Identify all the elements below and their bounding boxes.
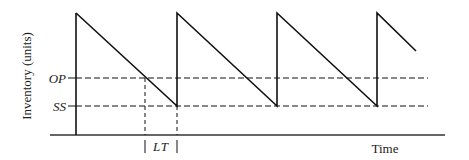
ss-label: SS [53, 99, 67, 114]
lead-time-label: LT [152, 139, 169, 154]
inventory-sawtooth [76, 13, 416, 106]
x-axis-label: Time [372, 141, 399, 156]
inventory-diagram: Inventory (units) OP SS LT Time [0, 0, 469, 160]
op-label: OP [49, 71, 66, 86]
y-axis-label: Inventory (units) [19, 32, 34, 120]
order-point-level: OP [49, 71, 428, 86]
lead-time-marker: LT [145, 78, 177, 154]
